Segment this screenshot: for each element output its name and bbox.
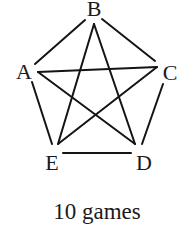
edges [32,19,163,153]
edge-c-d [142,84,163,144]
node-label-e: E [45,150,58,175]
edge-a-b [35,20,85,64]
node-label-c: C [163,60,178,85]
complete-graph-diagram: ABCDE 10 games [0,0,195,225]
node-labels: ABCDE [16,0,177,175]
node-label-a: A [16,59,32,84]
edge-b-c [102,19,155,61]
node-label-b: B [87,0,102,21]
edge-c-e [58,67,157,144]
edge-b-e [58,24,94,144]
edge-a-e [32,82,52,144]
edge-b-d [94,24,135,144]
edge-a-d [38,72,135,144]
edge-a-c [38,67,157,72]
node-label-d: D [136,150,152,175]
caption: 10 games [53,199,141,224]
